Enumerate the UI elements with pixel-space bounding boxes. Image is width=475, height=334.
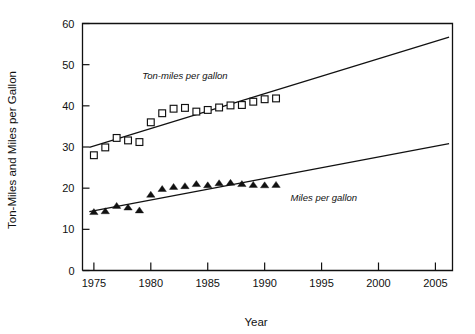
series-0 <box>90 95 279 159</box>
data-point <box>181 183 189 189</box>
annotation-0: Ton-miles per gallon <box>142 70 227 81</box>
y-tick-label-10: 10 <box>62 223 74 235</box>
data-point <box>261 96 268 103</box>
data-point <box>204 182 212 188</box>
data-point <box>215 180 223 186</box>
data-point <box>227 102 234 109</box>
x-tick-label-2000: 2000 <box>366 277 390 289</box>
y-tick-label-60: 60 <box>62 18 74 30</box>
x-tick-label-1990: 1990 <box>252 277 276 289</box>
data-point <box>260 182 268 188</box>
data-point <box>158 186 166 192</box>
x-tick-label-1980: 1980 <box>139 277 163 289</box>
data-point <box>182 104 189 111</box>
y-tick-label-40: 40 <box>62 100 74 112</box>
data-point <box>125 137 132 144</box>
data-point <box>169 183 177 189</box>
plot-frame <box>83 24 453 271</box>
data-point <box>90 152 97 159</box>
data-point <box>113 135 120 142</box>
data-point <box>135 207 143 213</box>
data-point <box>147 191 155 197</box>
annotation-1: Miles per gallon <box>291 192 358 203</box>
data-point <box>159 110 166 117</box>
x-tick-label-1985: 1985 <box>195 277 219 289</box>
y-tick-label-0: 0 <box>68 265 74 277</box>
data-point <box>193 108 200 115</box>
y-tick-label-30: 30 <box>62 141 74 153</box>
data-point <box>216 104 223 111</box>
series-1 <box>90 179 281 214</box>
data-point <box>192 181 200 187</box>
data-point <box>273 95 280 102</box>
series-annotations: Ton-miles per gallonMiles per gallon <box>142 70 357 203</box>
chart-canvas: 0102030405060 19751980198519901995200020… <box>0 0 475 334</box>
x-tick-label-1975: 1975 <box>82 277 106 289</box>
data-series-markers <box>90 95 281 215</box>
x-tick-label-1995: 1995 <box>309 277 333 289</box>
trend-line-1 <box>89 144 449 212</box>
data-point <box>170 105 177 112</box>
y-axis-ticks <box>83 24 90 271</box>
data-point <box>204 107 211 114</box>
data-point <box>238 102 245 109</box>
y-axis-tick-labels: 0102030405060 <box>62 18 74 277</box>
x-tick-label-2005: 2005 <box>423 277 447 289</box>
plot-frame-path <box>83 24 453 271</box>
y-axis-title: Ton-Miles and Miles per Gallon <box>6 71 18 229</box>
chart-figure: 0102030405060 19751980198519901995200020… <box>0 0 475 334</box>
trend-line-0 <box>89 37 449 147</box>
data-point <box>250 98 257 105</box>
x-axis-tick-labels: 1975198019851990199520002005 <box>82 277 448 289</box>
data-point <box>147 119 154 126</box>
data-point <box>136 139 143 146</box>
data-point <box>226 179 234 185</box>
y-tick-label-20: 20 <box>62 182 74 194</box>
y-tick-label-50: 50 <box>62 59 74 71</box>
x-axis-title: Year <box>244 316 267 328</box>
data-point <box>249 181 257 187</box>
x-axis-ticks <box>94 263 436 271</box>
data-point <box>272 181 280 187</box>
data-point <box>102 144 109 151</box>
trend-lines <box>89 37 449 212</box>
